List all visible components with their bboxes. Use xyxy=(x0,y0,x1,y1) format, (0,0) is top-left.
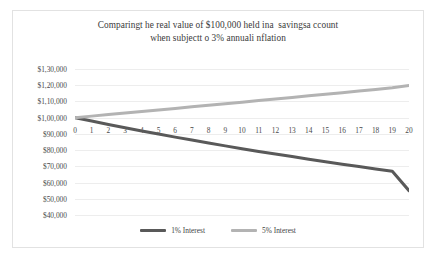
series-lines xyxy=(75,69,409,215)
y-axis-tick-label: $1,10,000 xyxy=(37,97,67,106)
y-axis-tick-label: $1,30,000 xyxy=(37,65,67,74)
chart-container: Comparingt he real value of $100,000 hel… xyxy=(12,10,424,248)
y-axis-tick-label: $40,000 xyxy=(43,211,67,220)
legend-label: 1% Interest xyxy=(171,226,205,235)
legend-label: 5% Interest xyxy=(262,226,296,235)
gridline xyxy=(75,215,409,216)
legend-swatch xyxy=(140,229,166,232)
y-axis-tick-label: $70,000 xyxy=(43,162,67,171)
legend-item[interactable]: 5% Interest xyxy=(231,226,296,235)
chart-title-line-2: when subjectt o 3% annuali nflation xyxy=(13,32,423,45)
y-axis-tick-label: $80,000 xyxy=(43,146,67,155)
legend-item[interactable]: 1% Interest xyxy=(140,226,205,235)
y-axis-tick-label: $1,00,000 xyxy=(37,113,67,122)
y-axis-tick-label: $60,000 xyxy=(43,178,67,187)
y-axis-tick-label: $1,20,000 xyxy=(37,81,67,90)
y-axis-labels: $1,30,000$1,20,000$1,10,000$1,00,000$90,… xyxy=(13,69,71,215)
chart-title-line-1: Comparingt he real value of $100,000 hel… xyxy=(13,19,423,32)
y-axis-tick-label: $90,000 xyxy=(43,129,67,138)
chart-legend: 1% Interest5% Interest xyxy=(13,226,423,235)
chart-title: Comparingt he real value of $100,000 hel… xyxy=(13,19,423,44)
y-axis-tick-label: $50,000 xyxy=(43,194,67,203)
legend-swatch xyxy=(231,229,257,232)
series-line xyxy=(75,118,409,191)
series-line xyxy=(75,86,409,118)
